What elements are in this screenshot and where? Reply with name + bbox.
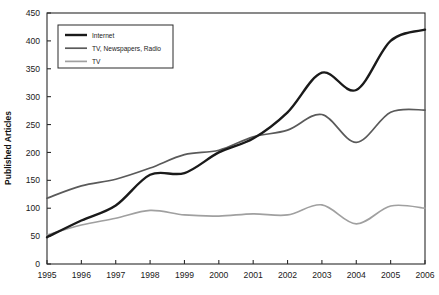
x-axis-tick-label: 2002 [278,270,297,280]
x-axis-tick-label: 1998 [141,270,160,280]
y-axis-tick-label: 450 [26,8,41,18]
legend-label-2: TV, Newspapers, Radio [92,45,161,53]
x-axis-tick-label: 2004 [347,270,366,280]
x-axis-tick-label: 1995 [37,270,56,280]
y-axis-tick-label: 300 [26,92,41,102]
y-axis-tick-label: 350 [26,64,41,74]
legend-label-3: TV [92,58,101,65]
x-axis-tick-label: 2001 [244,270,263,280]
chart-figure: Published Articles 050100150200250300350… [0,0,439,295]
y-axis-tick-label: 200 [26,148,41,158]
y-axis-tick-label: 50 [30,231,40,241]
y-axis-tick-label: 150 [26,175,41,185]
y-axis-title: Published Articles [3,111,13,185]
y-axis-tick-label: 0 [35,259,40,269]
y-axis-tick-label: 250 [26,120,41,130]
x-axis-tick-label: 2000 [209,270,228,280]
line-chart: Published Articles 050100150200250300350… [0,0,439,295]
y-axis-tick-label: 100 [26,203,41,213]
y-axis-tick-label: 400 [26,36,41,46]
x-axis-tick-label: 2003 [312,270,331,280]
x-axis-tick-label: 1997 [106,270,125,280]
legend-label-1: Internet [92,32,115,39]
x-axis-tick-label: 2006 [415,270,434,280]
x-axis-tick-label: 2005 [381,270,400,280]
x-axis-tick-label: 1999 [175,270,194,280]
chart-legend: InternetTV, Newspapers, RadioTV [58,25,173,68]
x-axis-tick-label: 1996 [72,270,91,280]
